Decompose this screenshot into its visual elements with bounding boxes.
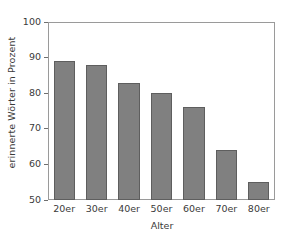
bar <box>86 65 107 200</box>
x-tick-label: 70er <box>210 203 242 215</box>
x-tick-label: 60er <box>178 203 210 215</box>
y-tick-label: 100 <box>23 16 41 28</box>
y-tick-mark <box>44 200 48 201</box>
y-tick-mark <box>44 128 48 129</box>
bar <box>216 150 237 200</box>
y-tick-mark <box>44 22 48 23</box>
x-axis-title: Alter <box>48 220 276 231</box>
y-tick-mark <box>44 57 48 58</box>
bar <box>183 107 204 200</box>
bar-chart-figure: erinnerte Wörter in Prozent 506070809010… <box>0 0 298 242</box>
bar <box>151 93 172 200</box>
x-tick-label: 20er <box>48 203 80 215</box>
y-tick-mark <box>44 164 48 165</box>
y-tick-label: 50 <box>29 194 41 206</box>
x-tick-label: 30er <box>80 203 112 215</box>
bar <box>118 83 139 200</box>
y-tick-label: 70 <box>29 122 41 134</box>
y-tick-label: 90 <box>29 51 41 63</box>
x-tick-label: 50er <box>145 203 177 215</box>
y-tick-mark <box>44 93 48 94</box>
x-tick-label: 40er <box>113 203 145 215</box>
x-tick-label: 80er <box>243 203 275 215</box>
bar <box>248 182 269 200</box>
y-tick-label: 60 <box>29 158 41 170</box>
y-axis-title-text: erinnerte Wörter in Prozent <box>7 37 18 169</box>
y-tick-label: 80 <box>29 87 41 99</box>
bar <box>54 61 75 200</box>
y-axis-title: erinnerte Wörter in Prozent <box>2 0 22 205</box>
